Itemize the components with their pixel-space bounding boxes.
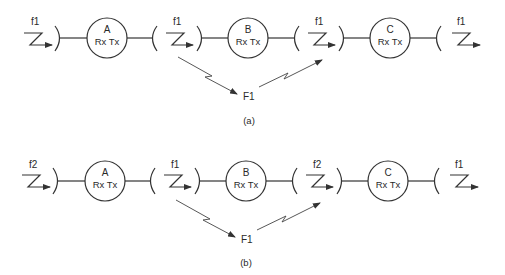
interference-label: F1 [241, 234, 253, 245]
station-name: C [384, 167, 391, 178]
panel-caption: (b) [240, 257, 252, 268]
antenna-dish-icon [195, 168, 200, 194]
radio-hop-output-c: f1 [437, 16, 481, 51]
overshoot-arrow-icon [259, 60, 322, 87]
radio-hop-a-b: f1 [153, 16, 202, 51]
frequency-label: f1 [315, 16, 324, 27]
frequency-label: f2 [29, 159, 38, 170]
station-c: C Rx Tx [370, 18, 410, 58]
station-name: B [245, 24, 252, 35]
radio-hop-b-c: f2 [293, 159, 342, 194]
overshoot-arrow-icon [176, 200, 235, 237]
antenna-dish-icon [337, 168, 342, 194]
station-rxtx: Rx Tx [234, 179, 259, 190]
radio-zigzag-arrow-icon [24, 33, 52, 45]
panel-a: f1 A Rx Tx f1 B Rx Tx f1 [24, 16, 480, 126]
radio-zigzag-arrow-icon [164, 175, 191, 187]
radio-hop-input-a: f1 [24, 16, 60, 51]
radio-hop-input-a: f2 [22, 159, 58, 194]
station-a: A Rx Tx [85, 161, 125, 201]
station-rxtx: Rx Tx [95, 36, 120, 47]
station-b: B Rx Tx [228, 18, 268, 58]
radio-hop-b-c: f1 [295, 16, 344, 51]
radio-zigzag-arrow-icon [22, 175, 50, 187]
overshoot-arrow-icon [178, 57, 237, 94]
antenna-dish-icon [153, 26, 158, 51]
panel-caption: (a) [243, 115, 255, 126]
antenna-dish-icon [339, 26, 344, 51]
station-name: C [386, 24, 393, 35]
interference-path: F1 [178, 57, 322, 102]
radio-zigzag-arrow-icon [166, 33, 193, 45]
panel-b: f2 A Rx Tx f1 B Rx Tx f2 [22, 159, 478, 268]
station-rxtx: Rx Tx [378, 36, 403, 47]
station-b: B Rx Tx [226, 161, 266, 201]
interference-path: F1 [176, 200, 320, 245]
frequency-label: f2 [313, 159, 322, 170]
antenna-dish-icon [53, 168, 58, 194]
radio-zigzag-arrow-icon [306, 175, 333, 187]
radio-hop-a-b: f1 [151, 159, 200, 194]
relay-diagram: f1 A Rx Tx f1 B Rx Tx f1 [0, 0, 505, 275]
radio-hop-output-c: f1 [435, 159, 479, 194]
station-rxtx: Rx Tx [93, 179, 118, 190]
station-name: A [102, 167, 109, 178]
radio-zigzag-arrow-icon [452, 33, 480, 45]
station-rxtx: Rx Tx [236, 36, 261, 47]
antenna-dish-icon [197, 26, 202, 51]
frequency-label: f1 [173, 16, 182, 27]
antenna-dish-icon [151, 168, 156, 194]
antenna-dish-icon [437, 26, 442, 51]
frequency-label: f1 [455, 159, 464, 170]
radio-zigzag-arrow-icon [450, 175, 478, 187]
frequency-label: f1 [457, 16, 466, 27]
antenna-dish-icon [435, 168, 440, 194]
interference-label: F1 [243, 91, 255, 102]
station-name: B [243, 167, 250, 178]
frequency-label: f1 [31, 16, 40, 27]
overshoot-arrow-icon [257, 203, 320, 230]
station-a: A Rx Tx [87, 18, 127, 58]
station-c: C Rx Tx [368, 161, 408, 201]
radio-zigzag-arrow-icon [308, 33, 335, 45]
antenna-dish-icon [55, 26, 60, 51]
frequency-label: f1 [171, 159, 180, 170]
station-rxtx: Rx Tx [376, 179, 401, 190]
antenna-dish-icon [293, 168, 298, 194]
antenna-dish-icon [295, 26, 300, 51]
station-name: A [104, 24, 111, 35]
